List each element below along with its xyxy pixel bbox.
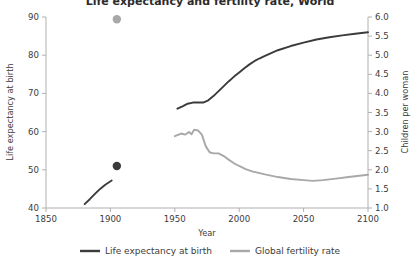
left-tick-label: 90 (28, 12, 39, 22)
series-line-life-expectancy-at-birth (177, 32, 368, 108)
x-axis-title: Year (197, 228, 216, 238)
chart-title: Life expectancy and fertility rate, Worl… (86, 0, 335, 8)
right-tick-label: 4.0 (375, 88, 389, 98)
scatter-points-layer (113, 15, 121, 170)
chart-legend: Life expectancy at birthGlobal fertility… (80, 246, 340, 256)
left-tick-label: 40 (28, 203, 39, 213)
right-tick-label: 5.5 (375, 31, 389, 41)
life-expectancy-point (113, 162, 121, 170)
x-tick-label: 1850 (35, 214, 57, 224)
left-tick-label: 70 (28, 88, 39, 98)
right-axis-ticks: 1.01.52.02.53.03.54.04.55.05.56.0 (368, 12, 389, 213)
right-axis-title: Children per woman (400, 71, 410, 154)
right-tick-label: 6.0 (375, 12, 389, 22)
x-axis-ticks: 185019001950200020502100 (35, 208, 379, 224)
right-tick-label: 5.0 (375, 50, 389, 60)
x-tick-label: 1950 (164, 214, 186, 224)
fertility-rate-point (113, 15, 121, 23)
right-tick-label: 4.5 (375, 69, 389, 79)
x-tick-label: 2050 (293, 214, 315, 224)
right-tick-label: 3.0 (375, 127, 389, 137)
left-axis-title: Life expectancy at birth (5, 63, 15, 160)
left-axis-ticks: 405060708090 (28, 12, 46, 213)
right-tick-label: 2.5 (375, 146, 389, 156)
right-tick-label: 1.0 (375, 203, 389, 213)
x-tick-label: 2100 (357, 214, 379, 224)
x-tick-label: 1900 (99, 214, 121, 224)
right-tick-label: 3.5 (375, 108, 389, 118)
x-tick-label: 2000 (228, 214, 250, 224)
legend-label[interactable]: Global fertility rate (255, 246, 340, 256)
legend-label[interactable]: Life expectancy at birth (105, 246, 212, 256)
life-expectancy-fertility-chart: Life expectancy and fertility rate, Worl… (0, 0, 420, 265)
series-line-global-fertility-rate (175, 130, 368, 181)
right-tick-label: 1.5 (375, 184, 389, 194)
left-tick-label: 60 (28, 127, 39, 137)
left-tick-label: 50 (28, 165, 39, 175)
series-line-life-expectancy-at-birth (85, 181, 112, 205)
left-tick-label: 80 (28, 50, 39, 60)
right-tick-label: 2.0 (375, 165, 389, 175)
chart-container: Life expectancy and fertility rate, Worl… (0, 0, 420, 265)
series-layer (85, 32, 368, 204)
